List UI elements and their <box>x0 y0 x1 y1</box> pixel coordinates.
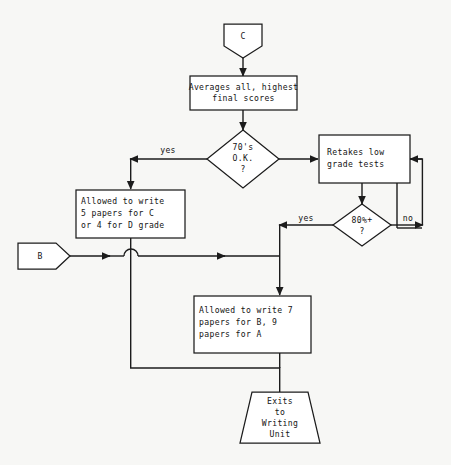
exits-line1: Exits <box>267 396 293 406</box>
retakes-line1: Retakes low <box>327 147 384 157</box>
decision-80-shape[interactable] <box>333 204 391 246</box>
flowchart-svg: C Averages all, highest final scores 70'… <box>0 0 451 465</box>
decision-70-line1: 70's <box>233 142 254 152</box>
connector-b-shape[interactable] <box>18 243 70 269</box>
averages-line1: Averages all, highest <box>189 82 299 92</box>
allowed-ab-line3: papers for A <box>199 329 262 339</box>
edge-label-yes-80: yes <box>298 213 314 223</box>
exits-line2: to <box>275 407 285 417</box>
edge-label-no-80: no <box>403 213 413 223</box>
connector-c-shape[interactable] <box>224 24 262 58</box>
connector-b-label: B <box>37 251 42 261</box>
retakes-line2: grade tests <box>327 159 384 169</box>
allowed-ab-line2: papers for B, 9 <box>199 317 277 327</box>
exits-line4: Unit <box>270 429 291 439</box>
allowed-cd-line3: or 4 for D grade <box>81 220 165 230</box>
exits-line3: Writing <box>262 418 299 428</box>
allowed-cd-line1: Allowed to write <box>81 196 165 206</box>
allowed-ab-line1: Allowed to write 7 <box>199 305 293 315</box>
decision-80-line2: ? <box>359 226 364 236</box>
decision-70-line2: O.K. <box>233 153 254 163</box>
connector-c-label: C <box>240 31 245 41</box>
decision-70-line3: ? <box>240 164 245 174</box>
decision-80-line1: 80%+ <box>352 215 373 225</box>
edge-label-yes-70: yes <box>160 145 176 155</box>
allowed-cd-line2: 5 papers for C <box>81 208 154 218</box>
averages-line2: final scores <box>212 93 275 103</box>
flowchart-canvas: C Averages all, highest final scores 70'… <box>0 0 451 465</box>
